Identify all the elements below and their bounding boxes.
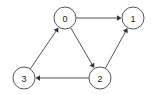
graph-edge	[30, 31, 56, 69]
node-label: 3	[21, 74, 26, 84]
graph-node[interactable]: 2	[89, 67, 111, 89]
edge-arrowhead-icon	[36, 75, 41, 81]
graph-edge	[106, 31, 126, 67]
graph-edge	[71, 28, 92, 65]
edge-layer	[30, 15, 127, 81]
graph-node[interactable]: 0	[54, 7, 76, 29]
node-label: 2	[97, 74, 102, 84]
node-layer: 0123	[13, 7, 144, 89]
edge-arrowhead-icon	[54, 27, 59, 32]
node-label: 0	[62, 14, 67, 24]
graph-node[interactable]: 3	[13, 67, 35, 89]
graph-diagram: 0123	[0, 0, 156, 98]
graph-node[interactable]: 1	[122, 7, 144, 29]
edge-arrowhead-icon	[117, 15, 122, 21]
graph-canvas: 0123	[0, 0, 156, 98]
node-label: 1	[130, 14, 135, 24]
